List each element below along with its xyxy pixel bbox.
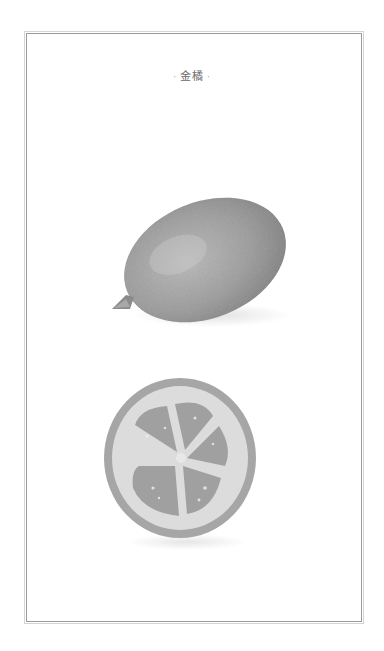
kumquat-cross-section-illustration: [95, 370, 265, 550]
title-text: 金橘: [180, 70, 204, 83]
kumquat-whole-illustration: [100, 185, 300, 335]
title-prefix-dot: ·: [173, 72, 177, 82]
title-suffix-dot: ·: [207, 72, 211, 82]
page-title: ·金橘·: [0, 67, 384, 83]
